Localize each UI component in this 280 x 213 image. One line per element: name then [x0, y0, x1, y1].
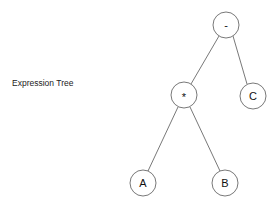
node-label-a: A [139, 177, 147, 189]
edge-root-c [233, 36, 247, 84]
edge-mul-b [190, 107, 220, 171]
node-root: - [213, 12, 239, 38]
edge-mul-a [148, 107, 178, 171]
node-b: B [212, 170, 238, 196]
node-label-c: C [249, 90, 257, 102]
node-multiply: * [171, 82, 197, 108]
edge-root-mul [191, 36, 219, 84]
node-c: C [240, 83, 266, 109]
node-label-multiply: * [182, 91, 187, 103]
expression-tree: - * C A B [0, 0, 280, 213]
node-label-b: B [221, 177, 228, 189]
node-label-minus: - [224, 19, 228, 31]
edges [148, 36, 247, 171]
node-a: A [130, 170, 156, 196]
